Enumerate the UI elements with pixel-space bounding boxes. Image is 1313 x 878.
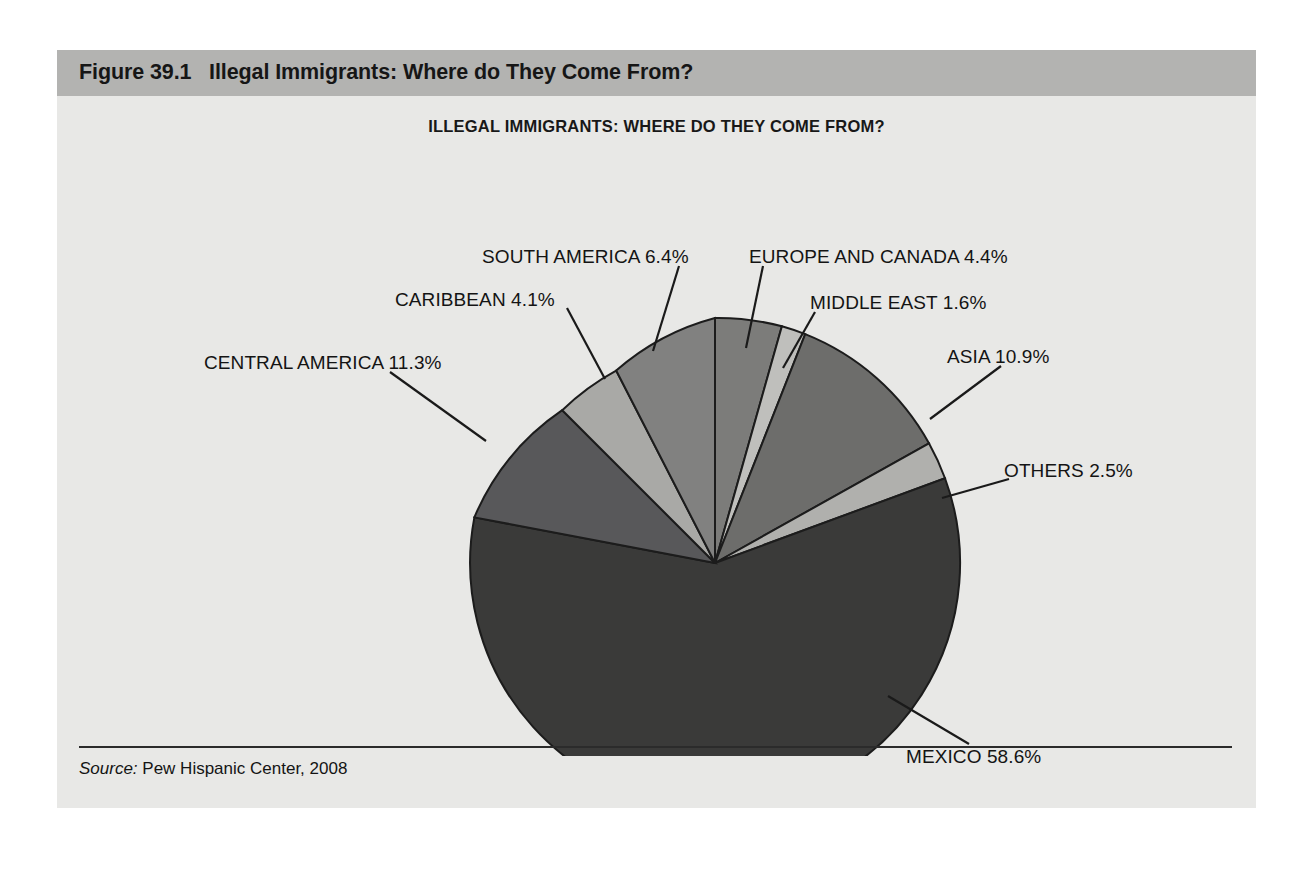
pie-label-central-america: CENTRAL AMERICA 11.3% <box>204 352 442 374</box>
figure-title: Figure 39.1 Illegal Immigrants: Where do… <box>79 60 693 85</box>
leader-line-others <box>942 479 1009 498</box>
pie-label-mexico: MEXICO 58.6% <box>906 746 1041 768</box>
pie-chart: SOUTH AMERICA 6.4% EUROPE AND CANADA 4.4… <box>57 96 1256 756</box>
leader-line-central-america <box>390 372 486 441</box>
page-root: Figure 39.1 Illegal Immigrants: Where do… <box>0 0 1313 878</box>
leader-line-asia <box>930 366 1001 419</box>
pie-label-caribbean: CARIBBEAN 4.1% <box>395 289 555 311</box>
leader-line-caribbean <box>567 308 605 379</box>
figure-body: ILLEGAL IMMIGRANTS: WHERE DO THEY COME F… <box>57 96 1256 808</box>
source-text: Pew Hispanic Center, 2008 <box>138 759 348 778</box>
pie-label-south-america: SOUTH AMERICA 6.4% <box>482 246 689 268</box>
pie-slices <box>470 318 960 756</box>
source-note: Source: Pew Hispanic Center, 2008 <box>79 759 347 779</box>
pie-label-asia: ASIA 10.9% <box>947 346 1049 368</box>
source-divider <box>79 746 1232 748</box>
pie-label-others: OTHERS 2.5% <box>1004 460 1133 482</box>
pie-label-middle-east: MIDDLE EAST 1.6% <box>810 292 987 314</box>
pie-chart-svg <box>57 96 1256 756</box>
figure-header-bar: Figure 39.1 Illegal Immigrants: Where do… <box>57 50 1256 96</box>
source-label: Source: <box>79 759 138 778</box>
pie-label-europe-and-canada: EUROPE AND CANADA 4.4% <box>749 246 1008 268</box>
figure-block: Figure 39.1 Illegal Immigrants: Where do… <box>57 50 1256 808</box>
